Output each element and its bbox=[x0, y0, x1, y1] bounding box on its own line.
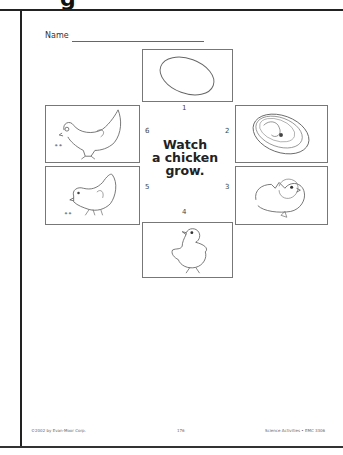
panel-3-hatching-chick bbox=[235, 166, 328, 225]
title-line-3: grow. bbox=[147, 164, 223, 177]
panel-number-3: 3 bbox=[225, 183, 229, 191]
name-label: Name bbox=[45, 31, 69, 40]
panel-2-embryo bbox=[235, 105, 328, 163]
panel-4-baby-chick bbox=[142, 222, 233, 278]
svg-text:⁕⁕: ⁕⁕ bbox=[64, 211, 72, 216]
bottom-divider bbox=[0, 446, 343, 448]
footer-page-number: 176 bbox=[177, 428, 185, 433]
svg-text:⁕⁕: ⁕⁕ bbox=[54, 143, 62, 148]
name-field-line[interactable] bbox=[72, 41, 204, 42]
hatching-chick-icon bbox=[236, 167, 327, 224]
baby-chick-icon bbox=[143, 223, 232, 277]
worksheet-title: Watch a chicken grow. bbox=[147, 138, 223, 177]
footer-copyright: ©2002 by Evan-Moor Corp. bbox=[31, 428, 86, 433]
egg-icon bbox=[143, 50, 232, 101]
embryo-icon bbox=[236, 106, 327, 162]
left-margin-divider bbox=[20, 10, 22, 447]
panel-number-1: 1 bbox=[182, 104, 186, 112]
hen-icon: ⁕⁕ bbox=[46, 106, 139, 162]
footer-series: Science Activities • EMC 3306 bbox=[265, 428, 325, 433]
panel-1-egg bbox=[142, 49, 233, 102]
panel-number-4: 4 bbox=[182, 208, 186, 216]
panel-6-hen: ⁕⁕ bbox=[45, 105, 140, 163]
panel-number-5: 5 bbox=[145, 183, 149, 191]
young-chicken-icon: ⁕⁕ bbox=[46, 167, 139, 224]
top-divider bbox=[0, 9, 343, 11]
panel-number-6: 6 bbox=[145, 127, 149, 135]
panel-number-2: 2 bbox=[225, 127, 229, 135]
panel-5-young-chicken: ⁕⁕ bbox=[45, 166, 140, 225]
